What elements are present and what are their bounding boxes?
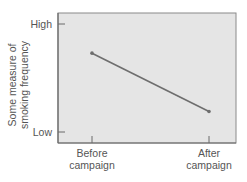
x-tick-label-before-line1: Before <box>57 147 127 159</box>
y-tick-label-high: High <box>12 18 52 30</box>
x-tick-label-before-line2: campaign <box>57 159 127 171</box>
x-tick-label-after-line1: After <box>174 147 244 159</box>
y-tick-label-low: Low <box>12 126 52 138</box>
data-point-after <box>207 110 211 114</box>
plot-area <box>58 13 236 143</box>
x-tick-label-after: After campaign <box>174 147 244 171</box>
data-point-before <box>90 51 94 55</box>
x-tick-label-after-line2: campaign <box>174 159 244 171</box>
x-tick-label-before: Before campaign <box>57 147 127 171</box>
